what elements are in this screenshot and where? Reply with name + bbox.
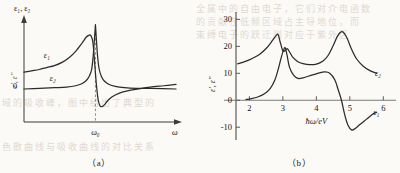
panel-b-label-epsilon1: ε₁ <box>373 108 379 117</box>
panel-b-x-tick-label: 3 <box>281 103 285 113</box>
figure-root: 全属中的自由电子，它们对介电函数 的贡献在低频区域占主导地位，而 束缚电子的跃迁… <box>0 0 400 173</box>
panel-a-x-axis <box>24 119 182 125</box>
panel-b-y-tick-label: -10 <box>221 122 232 132</box>
panel-a-label-epsilon1: ε₁ <box>44 51 50 60</box>
panel-b: ε', ε'' -100102030 23456 ħω/eV ε₂ ε₁ （b） <box>198 0 400 173</box>
panel-b-y-ticks: -100102030 <box>221 14 240 132</box>
panel-b-y-tick-label: 20 <box>224 41 233 51</box>
panel-b-caption: （b） <box>198 156 400 169</box>
panel-b-x-tick-label: 4 <box>314 103 319 113</box>
panel-b-x-tick-label: 5 <box>348 103 352 113</box>
panel-a-y-axis <box>21 15 27 122</box>
panel-b-y-tick-label: 10 <box>224 68 233 78</box>
panel-a: ε', ε'' ε₁, ε₂ 0 ω ω₀ ε₁ ε₂ （a <box>0 0 198 173</box>
panel-b-label-epsilon2: ε₂ <box>375 69 381 78</box>
panel-a-plot: ε₁, ε₂ 0 ω ω₀ ε₁ ε₂ <box>0 0 198 150</box>
panel-a-y-axis-label: ε₁, ε₂ <box>14 4 31 13</box>
panel-b-x-tick-label: 2 <box>247 103 251 113</box>
panel-b-x-ticks: 23456 <box>247 96 385 113</box>
panel-a-label-epsilon2: ε₂ <box>50 74 56 83</box>
panel-a-caption: （a） <box>0 156 198 169</box>
panel-b-y-tick-label: 0 <box>228 95 232 105</box>
panel-b-x-tick-label: 6 <box>381 103 385 113</box>
panel-a-x-axis-label: ω <box>172 128 178 137</box>
panel-b-x-axis-label: ħω/eV <box>306 116 329 126</box>
panel-b-plot: -100102030 23456 ħω/eV ε₂ ε₁ <box>198 0 400 150</box>
panel-a-origin-label: 0 <box>13 82 17 91</box>
panel-a-omega0-tick-label: ω₀ <box>91 128 100 137</box>
panel-b-curve-epsilon2 <box>238 31 377 73</box>
panel-b-y-tick-label: 30 <box>224 14 233 24</box>
